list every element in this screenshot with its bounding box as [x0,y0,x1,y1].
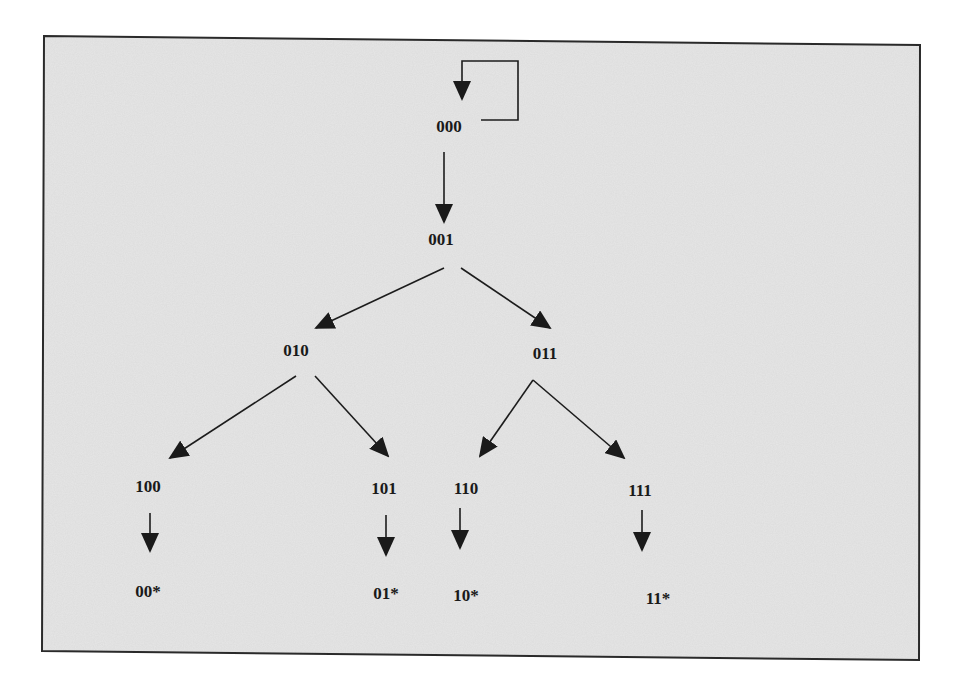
node-111: 111 [628,481,652,500]
diagram-canvas: 000 001 010 011 100 101 110 111 00* 01* … [0,0,956,698]
node-01-star: 01* [373,584,399,603]
node-10-star: 10* [453,586,479,605]
node-010: 010 [283,341,309,360]
node-100: 100 [135,477,161,496]
node-00-star: 00* [135,582,161,601]
diagram-frame [42,36,920,660]
node-101: 101 [371,479,397,498]
node-000: 000 [436,117,462,136]
node-11-star: 11* [646,589,671,608]
node-011: 011 [533,344,558,363]
node-110: 110 [454,479,479,498]
frame-texture [42,36,920,660]
node-001: 001 [428,230,454,249]
